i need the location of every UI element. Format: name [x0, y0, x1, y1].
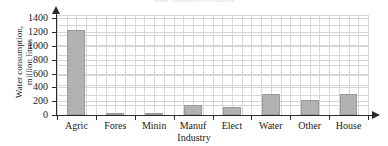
x-axis-tick — [368, 115, 369, 120]
bar — [262, 94, 280, 115]
x-axis-arrow-icon — [372, 111, 380, 119]
bar — [145, 113, 163, 115]
chart-title: Water consumption by industry — [0, 0, 388, 2]
y-axis-title-line1: Water consumption, — [14, 12, 24, 112]
bar — [106, 113, 124, 115]
bar-series — [57, 15, 368, 115]
x-axis-tick-label: Manuf — [174, 120, 213, 131]
chart-screenshot: Water consumption by industry 0200400600… — [0, 0, 388, 146]
x-axis-tick-label: Fores — [96, 120, 135, 131]
x-axis-line — [56, 115, 373, 116]
grid-line-vertical — [368, 15, 369, 115]
bar — [184, 105, 202, 115]
bar — [301, 100, 319, 115]
x-axis-tick-label: Minin — [135, 120, 174, 131]
y-axis-title: Water consumption, million litres — [14, 12, 34, 112]
bar — [67, 30, 85, 115]
x-axis-tick-label: Water — [251, 120, 290, 131]
x-axis-tick-label: House — [329, 120, 368, 131]
x-axis-title: Industry — [0, 132, 388, 143]
bar — [340, 94, 358, 115]
y-axis-arrow-icon — [52, 6, 60, 14]
x-axis-tick-label: Other — [290, 120, 329, 131]
bar — [223, 107, 241, 115]
x-axis-tick-label: Elect — [213, 120, 252, 131]
y-axis-title-line2: million litres — [24, 12, 34, 112]
x-axis-tick-label: Agric — [57, 120, 96, 131]
